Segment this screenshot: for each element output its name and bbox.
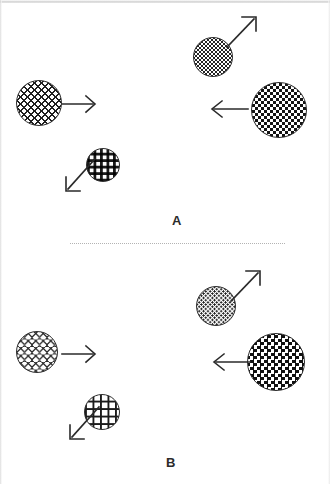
circle-open-grid-bottom xyxy=(84,394,120,430)
arrow-up-right-b xyxy=(230,268,264,302)
circle-large-hatched-left xyxy=(16,80,62,126)
circle-light-hatched-left xyxy=(16,331,58,373)
circle-stippled-top xyxy=(193,37,233,77)
arrow-left-b xyxy=(210,352,252,372)
panel-label-b: B xyxy=(166,455,176,471)
panel-b: B xyxy=(0,242,330,484)
circle-stippled-top xyxy=(196,286,236,326)
arrow-right-a xyxy=(62,94,100,114)
figure-canvas: A xyxy=(0,0,330,484)
circle-small-square-grid-bottom xyxy=(86,148,120,182)
arrow-up-right-a xyxy=(226,14,260,48)
circle-largest-checkered-right xyxy=(247,333,305,391)
arrow-right-b xyxy=(62,344,100,364)
panel-a: A xyxy=(0,0,330,242)
circle-largest-checkered-right xyxy=(251,82,307,138)
panel-label-a: A xyxy=(172,213,182,229)
arrow-left-a xyxy=(208,99,250,119)
